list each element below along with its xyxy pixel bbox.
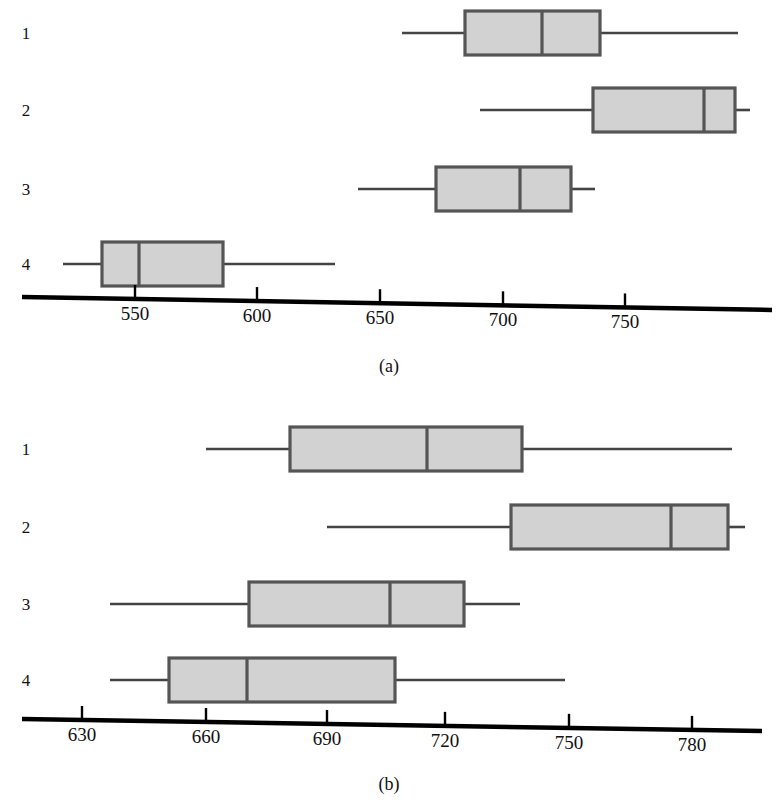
panel-a-row-label-4: 4	[14, 256, 38, 273]
box-iqr	[465, 11, 600, 55]
panel-a-row-label-1: 1	[14, 25, 38, 42]
boxplot-row	[358, 167, 595, 211]
boxplot-row	[480, 88, 750, 132]
box-iqr	[436, 167, 571, 211]
boxplot-row	[327, 505, 745, 549]
box-iqr	[593, 88, 735, 132]
panel-a-tick-label-550: 550	[105, 304, 165, 323]
panel-b-caption: (b)	[349, 775, 429, 793]
panel-b-tick-label-690: 690	[297, 729, 357, 748]
panel-b-row-label-3: 3	[14, 596, 38, 613]
panel-a-tick-label-700: 700	[473, 310, 533, 329]
boxplot-row	[402, 11, 738, 55]
box-iqr	[169, 658, 395, 702]
box-iqr	[102, 242, 223, 286]
panel-a	[0, 0, 779, 400]
panel-a-tick-label-750: 750	[595, 312, 655, 331]
panel-b-tick-label-750: 750	[539, 733, 599, 752]
panel-a-tick-label-600: 600	[227, 306, 287, 325]
boxplot-row	[206, 427, 732, 471]
panel-a-row-label-3: 3	[14, 181, 38, 198]
boxplot-figure: 1234550600650700750(a)123463066069072075…	[0, 0, 779, 811]
box-iqr	[290, 427, 522, 471]
panel-b-row-label-2: 2	[14, 519, 38, 536]
panel-b-row-label-1: 1	[14, 441, 38, 458]
panel-a-tick-label-650: 650	[350, 308, 410, 327]
panel-b-tick-label-660: 660	[176, 727, 236, 746]
boxplot-row	[63, 242, 335, 286]
panel-a-row-label-2: 2	[14, 102, 38, 119]
panel-b-tick-label-630: 630	[52, 725, 112, 744]
panel-b-row-label-4: 4	[14, 672, 38, 689]
box-iqr	[511, 505, 728, 549]
panel-a-plot	[0, 0, 779, 400]
x-axis-line	[22, 719, 762, 731]
panel-b-tick-label-780: 780	[662, 735, 722, 754]
box-iqr	[249, 582, 464, 626]
boxplot-row	[110, 658, 565, 702]
panel-b-tick-label-720: 720	[415, 731, 475, 750]
panel-a-caption: (a)	[349, 357, 429, 375]
boxplot-row	[110, 582, 520, 626]
